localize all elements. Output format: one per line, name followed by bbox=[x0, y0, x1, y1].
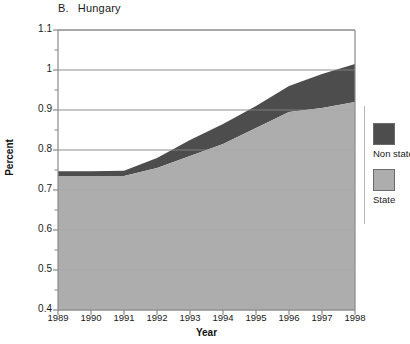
panel-name: Hungary bbox=[78, 2, 121, 14]
legend-swatch-non-state bbox=[373, 123, 395, 145]
x-tick-label-1996: 1996 bbox=[272, 312, 306, 323]
x-tick-label-1992: 1992 bbox=[140, 312, 174, 323]
chart-legend: Non state State bbox=[373, 123, 410, 215]
x-tick-label-1993: 1993 bbox=[173, 312, 207, 323]
y-tick-label-0.6: 0.6 bbox=[8, 223, 52, 234]
x-tick-label-1991: 1991 bbox=[107, 312, 141, 323]
y-tick-label-1: 1 bbox=[8, 63, 52, 74]
x-tick-label-1990: 1990 bbox=[74, 312, 108, 323]
legend-label-non-state: Non state bbox=[373, 148, 410, 159]
y-tick-label-0.9: 0.9 bbox=[8, 103, 52, 114]
x-tick-label-1994: 1994 bbox=[206, 312, 240, 323]
legend-label-state: State bbox=[373, 194, 410, 205]
y-tick-label-0.7: 0.7 bbox=[8, 183, 52, 194]
panel-letter: B. bbox=[58, 2, 69, 14]
x-tick-label-1995: 1995 bbox=[239, 312, 273, 323]
y-axis-title: Percent bbox=[4, 128, 15, 188]
legend-item-non-state: Non state bbox=[373, 123, 410, 159]
legend-divider bbox=[364, 106, 365, 224]
x-tick-label-1989: 1989 bbox=[41, 312, 75, 323]
chart-figure: B.Hungary Percent Year Non state State 0… bbox=[0, 0, 410, 344]
plot-area bbox=[0, 0, 410, 344]
x-tick-label-1997: 1997 bbox=[305, 312, 339, 323]
page-title: B.Hungary bbox=[58, 2, 121, 14]
x-tick-label-1998: 1998 bbox=[338, 312, 372, 323]
y-tick-label-0.8: 0.8 bbox=[8, 143, 52, 154]
legend-item-state: State bbox=[373, 169, 410, 205]
y-tick-label-1.1: 1.1 bbox=[8, 23, 52, 34]
legend-swatch-state bbox=[373, 169, 395, 191]
x-axis-title: Year bbox=[58, 327, 355, 338]
y-tick-label-0.5: 0.5 bbox=[8, 263, 52, 274]
